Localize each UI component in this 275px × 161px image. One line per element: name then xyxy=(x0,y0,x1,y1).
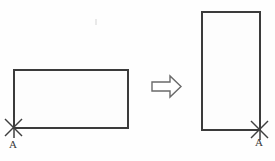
scan-artifact-speck xyxy=(95,19,97,25)
pivot-label-left: A xyxy=(9,139,17,150)
rotation-diagram: A A xyxy=(0,0,275,161)
vertical-rectangle xyxy=(202,12,260,130)
pivot-label-right: A xyxy=(255,137,263,148)
horizontal-rectangle xyxy=(14,70,128,128)
figure-canvas xyxy=(0,0,275,161)
transformation-arrow xyxy=(152,76,181,97)
